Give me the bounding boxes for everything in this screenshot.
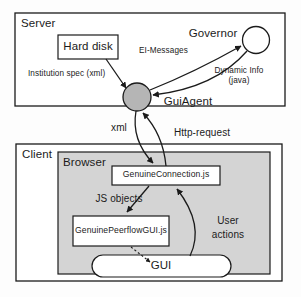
edge-label-http-request: Http-request <box>174 127 230 138</box>
edge-label-dynamic-info-line2: (java) <box>228 76 249 85</box>
edge-label-xml: xml <box>111 122 127 133</box>
governor-label: Governor <box>189 27 238 40</box>
edge-label-user-actions-line1: User <box>217 215 239 226</box>
genuine-connection-label: GenuineConnection.js <box>123 170 210 180</box>
edge-label-dynamic-info-line1: Dynamic Info <box>215 66 264 75</box>
client-container-label: Client <box>22 148 52 161</box>
gui-agent-label: GuiAgent <box>164 95 213 108</box>
hard-disk-label: Hard disk <box>63 40 112 53</box>
governor-node <box>243 27 270 54</box>
browser-container-label: Browser <box>63 156 106 169</box>
gui-agent-node <box>123 83 151 111</box>
genuine-peerflow-gui-label: GenuinePeerflowGUI.js <box>75 226 167 236</box>
edge-label-ei-messages: EI-Messages <box>139 46 188 55</box>
edge-label-user-actions-line2: actions <box>212 229 244 240</box>
server-container-label: Server <box>21 17 55 30</box>
edge-label-institution-spec: Institution spec (xml) <box>28 69 105 78</box>
diagram-canvas: Server Client Browser Hard disk Governor… <box>0 0 301 297</box>
gui-label: GUI <box>151 259 172 272</box>
edge-label-js-objects: JS objects <box>95 193 142 204</box>
